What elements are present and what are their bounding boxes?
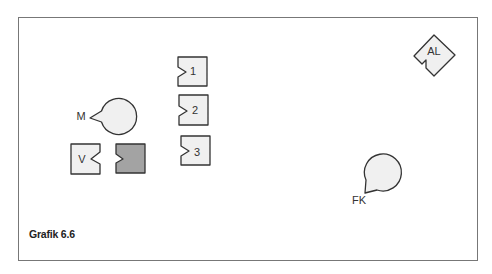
node-fk-label: FK [352, 194, 367, 206]
figure-caption: Grafik 6.6 [29, 228, 75, 240]
node-3-label: 3 [194, 146, 200, 158]
node-1: 1 [178, 57, 207, 86]
node-fk: FK [352, 154, 401, 206]
node-m-shape [90, 99, 137, 135]
node-al-label: AL [427, 45, 440, 57]
node-v: V [71, 144, 100, 174]
node-dark-shape [116, 144, 145, 173]
node-m: M [76, 99, 136, 135]
node-dark [116, 144, 145, 173]
node-m-label: M [76, 110, 85, 122]
node-fk-shape [364, 154, 401, 193]
node-3: 3 [181, 136, 210, 165]
node-v-label: V [78, 153, 86, 165]
node-2: 2 [179, 95, 208, 125]
node-2-label: 2 [192, 104, 198, 116]
node-al: AL [414, 35, 455, 76]
node-1-label: 1 [190, 65, 196, 77]
